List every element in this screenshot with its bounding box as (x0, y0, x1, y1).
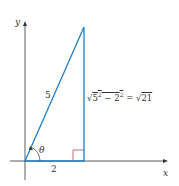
angle-label: θ (39, 145, 45, 155)
adjacent-label: 2 (51, 164, 57, 174)
x-axis-label: x (163, 168, 168, 178)
right-triangle (25, 27, 84, 161)
equals-sign: = (123, 93, 136, 103)
y-axis-arrow-icon (23, 21, 27, 26)
y-axis-label: y (14, 17, 21, 27)
result-value: 21 (141, 93, 152, 103)
x-axis-arrow-icon (163, 159, 168, 163)
minus-sign: − (102, 93, 115, 103)
radicand-1: 52 − 22 (92, 93, 123, 103)
hypotenuse-label: 5 (45, 90, 51, 100)
right-angle-marker (73, 150, 84, 161)
opposite-side-formula: √52 − 22 = √21 (87, 91, 152, 103)
